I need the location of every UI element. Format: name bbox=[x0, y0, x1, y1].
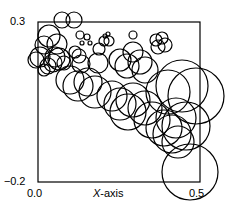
bubble-marker bbox=[88, 41, 92, 45]
bubble-marker bbox=[115, 54, 139, 78]
bubble-marker bbox=[116, 83, 150, 117]
bubble-marker bbox=[80, 41, 84, 45]
bubble-marker bbox=[76, 31, 84, 39]
plot-canvas bbox=[0, 0, 237, 209]
bubble-marker bbox=[106, 32, 110, 36]
x-axis-tick-left: 0.0 bbox=[27, 188, 42, 199]
bubble-series bbox=[28, 12, 224, 200]
bubble-marker bbox=[129, 31, 137, 39]
bubble-marker bbox=[153, 115, 191, 153]
bubble-marker bbox=[69, 46, 81, 58]
bubble-marker bbox=[97, 81, 127, 111]
bubble-marker bbox=[88, 53, 108, 73]
bubble-marker bbox=[84, 34, 90, 40]
x-axis-title-suffix: -axis bbox=[100, 187, 123, 199]
bubble-chart-figure: 0.3 −0.2 0.0 0.5 X-axis bbox=[0, 0, 237, 209]
x-axis-title: X-axis bbox=[93, 188, 124, 199]
x-axis-tick-right: 0.5 bbox=[189, 188, 204, 199]
y-axis-tick-bottom: −0.2 bbox=[4, 176, 25, 187]
y-axis-tick-top: 0.3 bbox=[10, 16, 25, 27]
bubble-marker bbox=[104, 88, 136, 120]
bubble-marker bbox=[66, 12, 82, 28]
bubble-marker bbox=[79, 76, 111, 108]
bubble-marker bbox=[132, 57, 158, 83]
